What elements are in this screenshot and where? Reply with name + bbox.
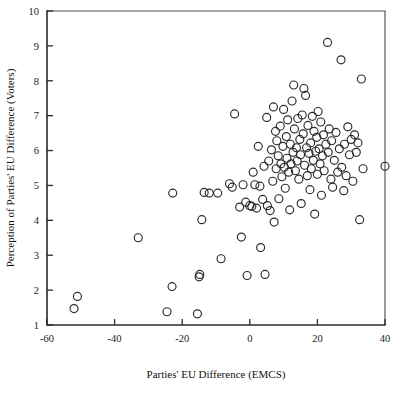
data-point xyxy=(274,152,282,160)
y-tick-label: 6 xyxy=(34,145,39,156)
data-point xyxy=(279,142,287,150)
data-point xyxy=(237,233,245,241)
data-point xyxy=(263,202,271,210)
data-point xyxy=(271,127,279,135)
y-tick-label: 4 xyxy=(34,215,40,226)
data-point xyxy=(269,177,277,185)
y-tick-label: 3 xyxy=(34,250,39,261)
data-point xyxy=(332,128,340,136)
data-point xyxy=(359,165,367,173)
data-point xyxy=(324,38,332,46)
x-tick-label: 0 xyxy=(247,333,252,344)
data-point xyxy=(272,165,280,173)
x-tick-label: -20 xyxy=(175,333,189,344)
data-point xyxy=(314,107,322,115)
y-tick-label: 10 xyxy=(29,6,40,17)
x-tick-label: 20 xyxy=(312,333,323,344)
data-point xyxy=(261,270,269,278)
data-point xyxy=(281,184,289,192)
data-point xyxy=(342,172,350,180)
y-tick-label: 9 xyxy=(34,41,39,52)
data-point xyxy=(256,182,264,190)
data-point xyxy=(286,140,294,148)
data-point xyxy=(198,216,206,224)
data-point xyxy=(231,110,239,118)
data-point xyxy=(217,255,225,263)
data-point xyxy=(297,200,305,208)
data-point xyxy=(163,308,171,316)
data-point xyxy=(354,139,362,147)
data-point xyxy=(260,162,268,170)
data-point xyxy=(214,189,222,197)
plot-frame xyxy=(47,11,385,325)
data-points xyxy=(70,38,389,317)
data-point xyxy=(317,191,325,199)
data-point xyxy=(352,148,360,156)
data-point xyxy=(269,103,277,111)
data-point xyxy=(286,206,294,214)
data-point xyxy=(344,123,352,131)
data-point xyxy=(193,310,201,318)
data-point xyxy=(288,97,296,105)
data-point xyxy=(270,218,278,226)
data-point xyxy=(253,204,261,212)
data-point xyxy=(335,145,343,153)
data-point xyxy=(306,186,314,194)
data-point xyxy=(134,234,142,242)
data-point xyxy=(73,292,81,300)
data-point xyxy=(266,207,274,215)
data-point xyxy=(263,113,271,121)
data-point xyxy=(340,187,348,195)
data-point xyxy=(357,75,365,83)
data-point xyxy=(276,122,284,130)
x-tick-label: -40 xyxy=(108,333,122,344)
data-point xyxy=(320,167,328,175)
data-point xyxy=(249,168,257,176)
data-point xyxy=(295,175,303,183)
axis-ticks xyxy=(47,11,385,325)
data-point xyxy=(290,81,298,89)
data-point xyxy=(284,116,292,124)
data-point xyxy=(337,56,345,64)
axis-left-bottom xyxy=(47,11,385,325)
data-point xyxy=(356,216,364,224)
data-point xyxy=(275,195,283,203)
data-point xyxy=(70,305,78,313)
data-point xyxy=(327,175,335,183)
x-tick-label: -60 xyxy=(40,333,54,344)
data-point xyxy=(169,189,177,197)
data-point xyxy=(265,157,273,165)
y-tick-label: 5 xyxy=(34,180,39,191)
data-point xyxy=(254,142,262,150)
x-tick-label: 40 xyxy=(380,333,391,344)
data-point xyxy=(290,125,298,133)
y-axis-title: Perception of Parties' EU Difference (Vo… xyxy=(4,68,17,267)
frame-top-right xyxy=(47,11,385,325)
scatter-plot-figure: -60-40-200204012345678910 Parties' EU Di… xyxy=(0,0,400,395)
axis-tick-labels: -60-40-200204012345678910 xyxy=(29,6,391,344)
data-point xyxy=(205,189,213,197)
data-point xyxy=(330,156,338,164)
data-point xyxy=(317,118,325,126)
data-point xyxy=(282,133,290,141)
y-tick-label: 1 xyxy=(34,320,39,331)
data-point xyxy=(251,181,259,189)
y-tick-label: 2 xyxy=(34,285,39,296)
data-point xyxy=(168,283,176,291)
data-point xyxy=(297,151,305,159)
y-tick-label: 8 xyxy=(34,76,39,87)
plot-canvas: -60-40-200204012345678910 Parties' EU Di… xyxy=(0,0,400,395)
data-point xyxy=(349,177,357,185)
data-point xyxy=(239,181,247,189)
y-tick-label: 7 xyxy=(34,110,39,121)
data-point xyxy=(257,244,265,252)
x-axis-title: Parties' EU Difference (EMCS) xyxy=(147,368,286,381)
data-point xyxy=(280,105,288,113)
data-point xyxy=(243,271,251,279)
data-point xyxy=(267,146,275,154)
data-point xyxy=(329,183,337,191)
data-point xyxy=(311,210,319,218)
